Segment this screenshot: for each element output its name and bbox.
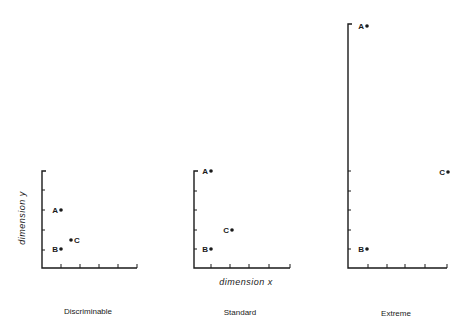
point-B (365, 247, 369, 251)
point-label-B: B (52, 245, 58, 254)
point-A (59, 208, 63, 212)
point-label-C: C (439, 168, 445, 177)
point-C (230, 228, 234, 232)
y-axis-label: dimension y (17, 191, 27, 245)
axes-standard (194, 171, 290, 268)
point-A (209, 169, 213, 173)
point-label-C: C (223, 226, 229, 235)
point-label-C: C (74, 236, 80, 245)
point-A (365, 24, 369, 28)
point-B (59, 247, 63, 251)
point-label-A: A (358, 22, 364, 31)
point-C (446, 170, 450, 174)
point-label-B: B (202, 245, 208, 254)
caption-discriminable: Discriminable (64, 307, 112, 316)
x-axis-label: dimension x (219, 277, 273, 287)
point-label-B: B (358, 245, 364, 254)
axes-extreme (348, 24, 447, 268)
point-C (69, 238, 73, 242)
point-B (209, 247, 213, 251)
caption-standard: Standard (224, 308, 256, 317)
point-label-A: A (52, 206, 58, 215)
caption-extreme: Extreme (381, 309, 411, 318)
point-label-A: A (202, 167, 208, 176)
